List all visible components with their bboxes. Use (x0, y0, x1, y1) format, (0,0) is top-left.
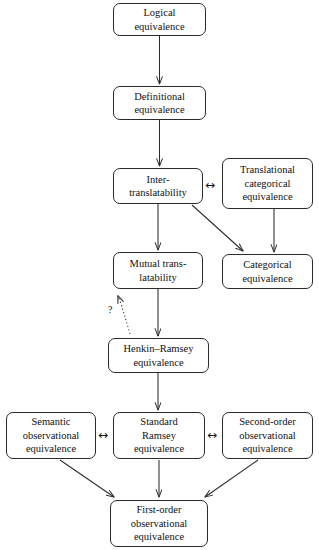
equivalence-hierarchy-diagram: Logical equivalence Definitional equival… (0, 0, 319, 550)
edge-inter-to-categorical (192, 205, 243, 251)
node-second-order-observational-equivalence[interactable]: Second-order observational equivalence (222, 412, 313, 459)
node-categorical-equivalence[interactable]: Categorical equivalence (222, 254, 313, 289)
bidirectional-arrow-inter-transcat: ↔ (205, 179, 215, 191)
bidirectional-arrow-ramsey-secondorder: ↔ (207, 429, 217, 441)
node-logical-equivalence[interactable]: Logical equivalence (113, 3, 206, 36)
edge-semantic-to-firstorder (60, 460, 114, 497)
node-henkin-ramsey-equivalence[interactable]: Henkin–Ramsey equivalence (108, 338, 209, 373)
node-first-order-observational-equivalence[interactable]: First-order observational equivalence (110, 500, 208, 547)
node-standard-ramsey-equivalence[interactable]: Standard Ramsey equivalence (113, 412, 205, 459)
node-definitional-equivalence[interactable]: Definitional equivalence (113, 86, 206, 120)
node-semantic-observational-equivalence[interactable]: Semantic observational equivalence (6, 412, 96, 459)
uncertain-link-question-mark: ? (108, 305, 112, 315)
node-translational-categorical-equivalence[interactable]: Translational categorical equivalence (222, 158, 313, 209)
edge-henkin-to-mutual-uncertain (118, 296, 130, 334)
bidirectional-arrow-semantic-ramsey: ↔ (98, 429, 108, 441)
node-inter-translatability[interactable]: Inter- translatability (113, 168, 203, 204)
edge-secondorder-to-firstorder (205, 460, 258, 497)
node-mutual-translatability[interactable]: Mutual trans- latability (113, 252, 203, 289)
